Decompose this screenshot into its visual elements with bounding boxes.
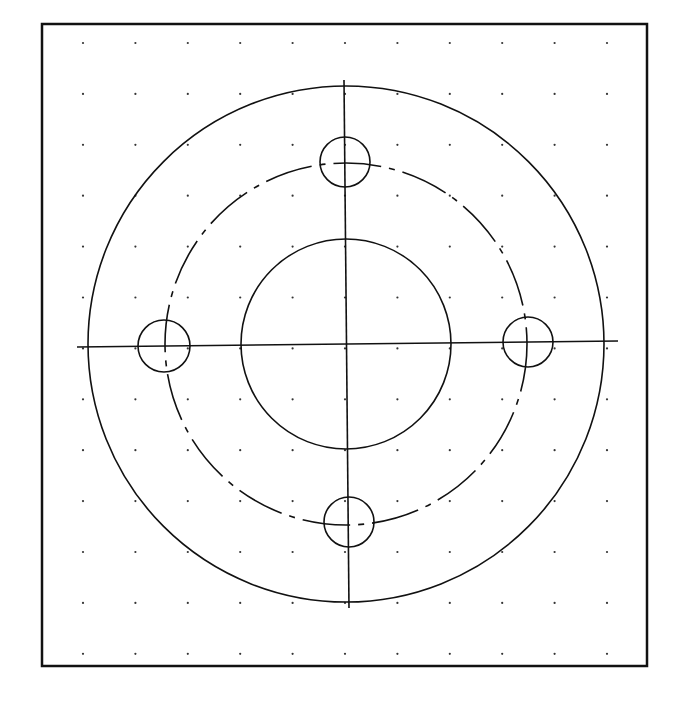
grid-dot [554, 144, 556, 146]
grid-dot [187, 42, 189, 44]
horizontal-center-line [77, 341, 618, 347]
grid-dot [82, 551, 84, 553]
grid-dot [606, 653, 608, 655]
grid-dot [187, 296, 189, 298]
grid-dot [82, 42, 84, 44]
grid-dot [292, 398, 294, 400]
grid-dot [134, 602, 136, 604]
grid-dot [554, 347, 556, 349]
grid-dot [501, 500, 503, 502]
grid-dot [239, 653, 241, 655]
grid-dot [239, 398, 241, 400]
grid-dot [501, 296, 503, 298]
grid-dot [239, 42, 241, 44]
grid-dot [396, 602, 398, 604]
grid-dot [292, 347, 294, 349]
grid-dot [82, 296, 84, 298]
grid-dot [501, 42, 503, 44]
grid-dot [396, 551, 398, 553]
grid-dot [396, 296, 398, 298]
grid-dot [344, 551, 346, 553]
grid-dot [449, 296, 451, 298]
grid-dot [292, 602, 294, 604]
grid-dot [134, 449, 136, 451]
grid-dot [449, 398, 451, 400]
grid-dot [239, 602, 241, 604]
grid-dot [554, 398, 556, 400]
grid-dot [396, 347, 398, 349]
grid-dot [606, 602, 608, 604]
grid-dot [396, 500, 398, 502]
grid-dot [396, 42, 398, 44]
grid-dot [449, 602, 451, 604]
grid-dot [396, 246, 398, 248]
grid-dot [187, 398, 189, 400]
grid-dot [82, 195, 84, 197]
grid-dot [187, 500, 189, 502]
grid-dot [134, 653, 136, 655]
grid-dot [134, 93, 136, 95]
grid-dot [554, 602, 556, 604]
grid-dot [554, 653, 556, 655]
grid-dot [606, 195, 608, 197]
grid-dot [344, 398, 346, 400]
grid-dot [292, 42, 294, 44]
grid-dot [134, 551, 136, 553]
grid-dot [449, 195, 451, 197]
grid-dot [606, 398, 608, 400]
grid-dot [501, 93, 503, 95]
grid-dot [134, 500, 136, 502]
grid-dot [501, 551, 503, 553]
grid-dot [606, 347, 608, 349]
grid-dot [606, 551, 608, 553]
grid-dot [501, 144, 503, 146]
grid-dot [292, 296, 294, 298]
grid-dot [239, 449, 241, 451]
grid-dot [344, 500, 346, 502]
grid-dot [187, 195, 189, 197]
grid-dot [187, 246, 189, 248]
grid-dot [292, 246, 294, 248]
grid-dot [554, 93, 556, 95]
grid-dot [554, 42, 556, 44]
grid-dot [187, 653, 189, 655]
grid-dot [134, 347, 136, 349]
grid-dot [134, 144, 136, 146]
grid-dot [239, 296, 241, 298]
grid-dot [239, 551, 241, 553]
grid-dot [187, 449, 189, 451]
grid-dot [292, 195, 294, 197]
grid-dot [449, 144, 451, 146]
grid-dot [292, 551, 294, 553]
grid-dot [501, 653, 503, 655]
grid-dot [82, 144, 84, 146]
grid-dot [449, 246, 451, 248]
grid-dot [554, 449, 556, 451]
flange-drawing-canvas [0, 0, 691, 717]
grid-dot [501, 449, 503, 451]
grid-dot [606, 500, 608, 502]
grid-dot [554, 246, 556, 248]
grid-dot [82, 653, 84, 655]
grid-dot [134, 246, 136, 248]
grid-dot [292, 653, 294, 655]
grid-dot [134, 296, 136, 298]
grid-dot [606, 449, 608, 451]
grid-dot [554, 500, 556, 502]
grid-dot [82, 246, 84, 248]
grid-dot [292, 449, 294, 451]
grid-dot [396, 449, 398, 451]
grid-dot [606, 296, 608, 298]
grid-dot [82, 93, 84, 95]
grid-dot [501, 398, 503, 400]
grid-dot [82, 398, 84, 400]
grid-dot [239, 144, 241, 146]
grid-dot [239, 500, 241, 502]
grid-dot [82, 449, 84, 451]
grid-dot [396, 93, 398, 95]
grid-dot [82, 602, 84, 604]
grid-dot [292, 500, 294, 502]
grid-dot [396, 398, 398, 400]
grid-dot [344, 42, 346, 44]
grid-dot [134, 398, 136, 400]
